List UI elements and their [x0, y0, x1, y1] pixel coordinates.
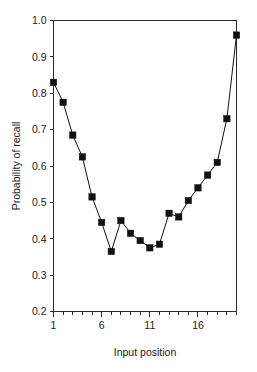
data-point-marker [224, 116, 230, 122]
data-point-marker [195, 185, 201, 191]
y-tick-label: 0.8 [32, 87, 47, 99]
y-tick-label: 0.6 [32, 160, 47, 172]
y-tick-label: 0.7 [32, 123, 47, 135]
data-point-marker [60, 99, 66, 105]
data-point-marker [118, 217, 124, 223]
data-point-marker [233, 32, 239, 38]
data-point-marker [137, 237, 143, 243]
y-tick-label: 0.2 [32, 305, 47, 317]
data-point-marker [156, 241, 162, 247]
y-tick-label: 1.0 [32, 14, 47, 26]
y-tick-label: 0.3 [32, 269, 47, 281]
data-point-marker [214, 159, 220, 165]
data-point-marker [204, 172, 210, 178]
x-tick-label: 1 [51, 319, 57, 331]
y-tick-label: 0.5 [32, 196, 47, 208]
data-point-marker [79, 154, 85, 160]
y-tick-label: 0.9 [32, 51, 47, 63]
x-axis-title: Input position [114, 346, 177, 358]
data-point-marker [127, 230, 133, 236]
data-point-marker [166, 210, 172, 216]
data-point-marker [185, 197, 191, 203]
data-point-marker [89, 194, 95, 200]
serial-position-chart: 0.20.30.40.50.60.70.80.91.0 161116 Input… [0, 0, 257, 372]
y-axis-tick-labels: 0.20.30.40.50.60.70.80.91.0 [32, 14, 47, 317]
data-point-marker [98, 219, 104, 225]
data-point-marker [176, 214, 182, 220]
data-point-marker [50, 79, 56, 85]
x-tick-label: 6 [99, 319, 105, 331]
y-axis-title: Probability of recall [10, 122, 22, 211]
data-point-marker [147, 245, 153, 251]
x-tick-label: 11 [144, 319, 155, 331]
data-point-marker [108, 248, 114, 254]
y-tick-label: 0.4 [32, 233, 47, 245]
data-point-marker [70, 132, 76, 138]
x-tick-label: 16 [192, 319, 204, 331]
chart-canvas: 0.20.30.40.50.60.70.80.91.0 161116 Input… [0, 0, 257, 372]
